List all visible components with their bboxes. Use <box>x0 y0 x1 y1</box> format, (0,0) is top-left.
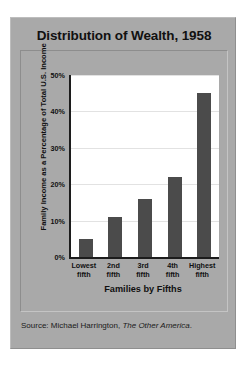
x-tick-line: Highest <box>187 261 217 270</box>
x-tick-label: Lowestfifth <box>69 261 99 279</box>
bar <box>108 217 122 257</box>
x-tick-label: Highestfifth <box>187 261 217 279</box>
x-tick-line: 3rd <box>128 261 158 270</box>
x-tick-line: Lowest <box>69 261 99 270</box>
bar <box>79 239 93 257</box>
x-tick-line: fifth <box>128 270 158 279</box>
bar <box>168 177 182 257</box>
chart-figure: Distribution of Wealth, 1958 Family Inco… <box>10 17 236 349</box>
bar-slot <box>71 75 101 257</box>
x-tick-line: fifth <box>69 270 99 279</box>
source-prefix: Source: Michael Harrington, <box>21 321 120 330</box>
bar-series <box>71 75 219 257</box>
bar-slot <box>101 75 131 257</box>
x-tick-label: 4thfifth <box>158 261 188 279</box>
y-tick-label: 20% <box>39 180 65 189</box>
x-tick-line: fifth <box>187 270 217 279</box>
y-axis-tick-labels: 0%10%20%30%40%50% <box>39 51 65 313</box>
x-axis-title: Families by Fifths <box>69 284 217 294</box>
y-tick-label: 0% <box>39 253 65 262</box>
source-book-title: The Other America <box>122 321 189 330</box>
y-tick-label: 30% <box>39 143 65 152</box>
bar-slot <box>189 75 219 257</box>
x-axis-tick-labels: Lowestfifth2ndfifth3rdfifth4thfifthHighe… <box>69 261 217 279</box>
chart-panel: Family Income as a Percentage of Total U… <box>20 50 228 312</box>
x-tick-label: 2ndfifth <box>99 261 129 279</box>
bar <box>138 199 152 257</box>
bar-slot <box>130 75 160 257</box>
y-tick-label: 40% <box>39 107 65 116</box>
y-tick-label: 50% <box>39 71 65 80</box>
source-suffix: . <box>190 321 192 330</box>
plot-area <box>69 75 219 259</box>
x-tick-line: 4th <box>158 261 188 270</box>
x-tick-line: fifth <box>158 270 188 279</box>
chart-title: Distribution of Wealth, 1958 <box>11 28 237 43</box>
bar-slot <box>160 75 190 257</box>
y-tick-label: 10% <box>39 216 65 225</box>
source-caption: Source: Michael Harrington, The Other Am… <box>21 321 231 330</box>
x-tick-label: 3rdfifth <box>128 261 158 279</box>
x-tick-line: 2nd <box>99 261 129 270</box>
x-tick-line: fifth <box>99 270 129 279</box>
bar <box>197 93 211 257</box>
